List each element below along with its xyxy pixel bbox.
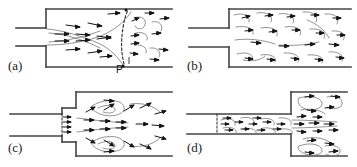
panel-c-streamlines: [77, 100, 160, 151]
panel-c-drawing: [0, 84, 178, 167]
panel-label-d: (d): [187, 140, 202, 156]
point-label-p: P: [116, 64, 123, 75]
panel-d-walls: [187, 92, 347, 156]
panel-b: [179, 0, 357, 83]
panel-a-wake-eddies: [134, 17, 162, 57]
panel-b-eddy-streamlines: [234, 12, 344, 63]
panel-a-streamlines: [47, 12, 131, 65]
panel-d-drawing: [179, 84, 357, 167]
panel-c-slot-arrows: [63, 116, 71, 134]
panel-a-drawing: [0, 0, 178, 83]
panel-label-b: (b): [187, 58, 202, 74]
panel-label-a: (a): [8, 58, 22, 74]
panel-b-drawing: [179, 0, 357, 83]
figure-root: (a) (b) (c) (d) P: [0, 0, 357, 167]
panel-a-wake-arrows: [130, 11, 169, 61]
panel-label-c: (c): [8, 140, 22, 156]
panel-b-walls: [189, 9, 351, 67]
panel-a-top-corner-dot: [125, 9, 128, 12]
panel-d: [179, 84, 357, 167]
panel-c: [0, 84, 178, 167]
panel-a: [0, 0, 178, 83]
